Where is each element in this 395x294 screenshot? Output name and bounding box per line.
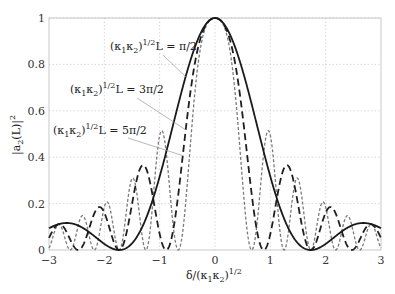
- y-tick-label: 1: [38, 12, 45, 25]
- x-tick-labels: −3−2−10123: [41, 254, 385, 267]
- y-tick-label: 0.2: [28, 198, 46, 211]
- y-tick-label: 0: [38, 244, 45, 257]
- annotation-3pi-half: (κ1κ2)1/2L = 3π/2: [70, 81, 164, 98]
- y-tick-label: 0.4: [28, 151, 46, 164]
- x-tick-label: −2: [96, 254, 112, 267]
- annotation-leader-line: [163, 55, 187, 78]
- annotation-5pi-half: (κ1κ2)1/2L = 5π/2: [53, 122, 147, 139]
- annotation-pi-half: (κ1κ2)1/2L = π/2: [110, 38, 197, 55]
- y-tick-label: 0.8: [28, 58, 46, 71]
- annotation-leader-line: [128, 138, 184, 156]
- x-tick-label: 2: [322, 254, 329, 267]
- y-tick-label: 0.6: [28, 105, 46, 118]
- y-tick-labels: 00.20.40.60.81: [28, 12, 46, 257]
- x-axis-label: δ/(κ1κ2)1/2: [186, 267, 242, 284]
- x-tick-label: −1: [152, 254, 168, 267]
- y-axis-label: |a2(L)|2: [8, 115, 25, 155]
- x-tick-label: 1: [267, 254, 274, 267]
- x-tick-label: 3: [378, 254, 385, 267]
- x-tick-label: 0: [212, 254, 219, 267]
- chart: −3−2−10123 00.20.40.60.81 (κ1κ2)1/2L = π…: [0, 0, 395, 294]
